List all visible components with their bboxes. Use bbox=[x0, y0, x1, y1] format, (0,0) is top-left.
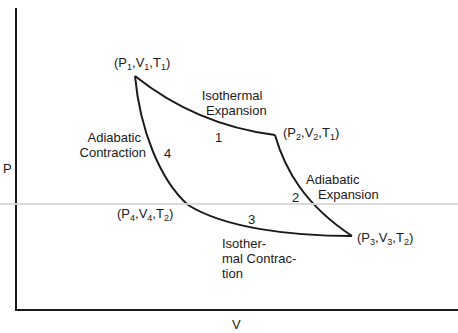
process-3-isothermal-contraction-curve bbox=[188, 205, 352, 236]
process-1-number: 1 bbox=[215, 130, 222, 145]
process-2-description: Adiabatic Expansion bbox=[306, 172, 379, 202]
state-2-label: (P2,V2,T1) bbox=[283, 125, 339, 145]
y-axis-label: P bbox=[3, 161, 12, 176]
pv-diagram-canvas bbox=[0, 0, 458, 333]
state-1-label: (P1,V1,T1) bbox=[114, 55, 170, 75]
state-4-label: (P4,V4,T2) bbox=[117, 206, 173, 226]
process-3-number: 3 bbox=[248, 212, 255, 227]
process-3-description: Isother- mal Contrac- tion bbox=[222, 236, 296, 281]
process-4-number: 4 bbox=[164, 146, 171, 161]
process-2-number: 2 bbox=[292, 190, 299, 205]
scan-artifact-line bbox=[0, 203, 458, 205]
x-axis-label: V bbox=[232, 317, 241, 332]
process-1-description: Isothermal Expansion bbox=[200, 88, 264, 118]
state-3-label: (P3,V3,T2) bbox=[357, 230, 413, 250]
process-4-description: Adiabatic Contraction bbox=[74, 130, 146, 160]
